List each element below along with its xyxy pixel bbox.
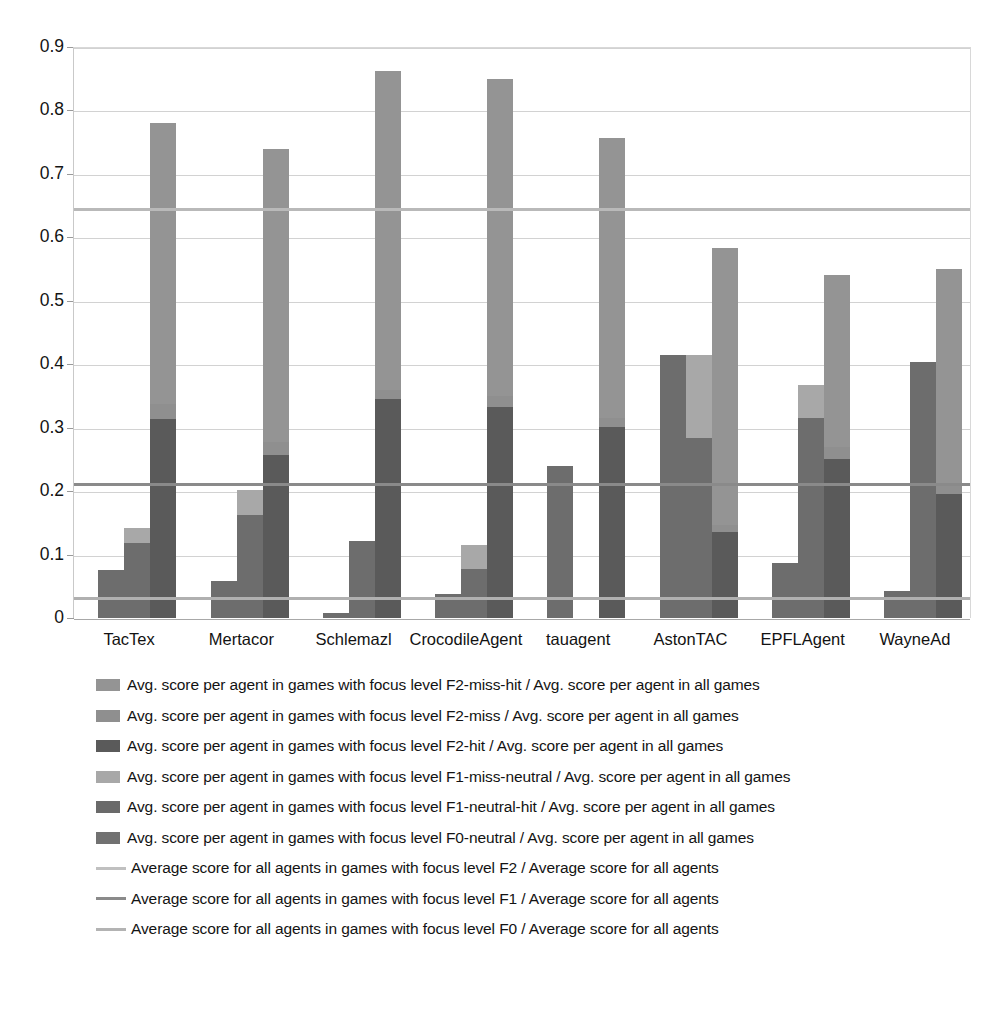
legend-line-icon — [96, 867, 126, 870]
stacked-bar — [936, 48, 962, 618]
legend-item[interactable]: Avg. score per agent in games with focus… — [96, 762, 790, 792]
bar-segment — [487, 407, 513, 618]
y-axis-tick-label: 0.4 — [18, 353, 64, 374]
stacked-bar — [124, 48, 150, 618]
legend-swatch-icon — [96, 832, 120, 844]
stacked-bar — [686, 48, 712, 618]
bar-segment — [798, 418, 824, 618]
y-axis-tick-label: 0.3 — [18, 417, 64, 438]
bar-group — [772, 48, 850, 618]
bar-segment — [936, 269, 962, 484]
bar-segment — [599, 427, 625, 618]
bar-group — [98, 48, 176, 618]
bar-group — [323, 48, 401, 618]
stacked-bar — [884, 48, 910, 618]
bar-segment — [237, 490, 263, 515]
bar-group — [435, 48, 513, 618]
stacked-bar — [375, 48, 401, 618]
legend-label: Avg. score per agent in games with focus… — [127, 737, 723, 755]
bar-segment — [910, 362, 936, 618]
legend-line-icon — [96, 928, 126, 931]
x-axis-label-epflagent: EPFLAgent — [760, 630, 844, 649]
bar-group — [211, 48, 289, 618]
y-axis-tick-label: 0.6 — [18, 226, 64, 247]
stacked-bar — [487, 48, 513, 618]
stacked-bar — [237, 48, 263, 618]
bar-segment — [375, 399, 401, 618]
bar-segment — [323, 613, 349, 618]
legend-label: Average score for all agents in games wi… — [131, 890, 719, 908]
bar-segment — [712, 532, 738, 618]
stacked-bar — [712, 48, 738, 618]
stacked-bar — [461, 48, 487, 618]
legend-label: Avg. score per agent in games with focus… — [127, 829, 754, 847]
bar-segment — [263, 442, 289, 455]
bar-group — [884, 48, 962, 618]
bar-segment — [599, 138, 625, 418]
bar-segment — [686, 355, 712, 438]
legend-label: Average score for all agents in games wi… — [131, 920, 719, 938]
bar-segment — [150, 123, 176, 403]
x-axis-label-crocodileagent: CrocodileAgent — [409, 630, 522, 649]
legend-swatch-icon — [96, 710, 120, 722]
bar-segment — [798, 385, 824, 419]
bar-segment — [150, 419, 176, 618]
bar-segment — [660, 355, 686, 618]
legend-swatch-icon — [96, 801, 120, 813]
bar-segment — [712, 525, 738, 533]
y-axis-tick-label: 0 — [18, 607, 64, 628]
stacked-bar — [323, 48, 349, 618]
stacked-bar — [573, 48, 599, 618]
stacked-bar — [211, 48, 237, 618]
y-axis-tick-label: 0.5 — [18, 290, 64, 311]
legend-item[interactable]: Avg. score per agent in games with focus… — [96, 792, 775, 822]
legend-item[interactable]: Average score for all agents in games wi… — [96, 914, 719, 944]
y-axis-tick-label: 0.8 — [18, 99, 64, 120]
reference-line-f0 — [74, 597, 970, 600]
bar-segment — [263, 455, 289, 618]
x-axis-labels: TacTexMertacorSchlemazlCrocodileAgenttau… — [73, 624, 971, 654]
stacked-bar — [547, 48, 573, 618]
bar-segment — [237, 515, 263, 618]
chart-legend: Avg. score per agent in games with focus… — [0, 660, 981, 950]
bar-segment — [124, 528, 150, 543]
legend-swatch-icon — [96, 679, 120, 691]
stacked-bar — [772, 48, 798, 618]
y-axis-tickmark — [67, 618, 74, 619]
legend-item[interactable]: Avg. score per agent in games with focus… — [96, 701, 739, 731]
x-axis-label-tauagent: tauagent — [546, 630, 610, 649]
legend-label: Average score for all agents in games wi… — [131, 859, 719, 877]
stacked-bar — [435, 48, 461, 618]
legend-item[interactable]: Avg. score per agent in games with focus… — [96, 731, 723, 761]
legend-item[interactable]: Average score for all agents in games wi… — [96, 884, 719, 914]
bar-segment — [263, 149, 289, 443]
bar-segment — [547, 466, 573, 618]
reference-line-f1 — [74, 483, 970, 486]
bar-segment — [772, 563, 798, 618]
legend-item[interactable]: Average score for all agents in games wi… — [96, 853, 719, 883]
legend-swatch-icon — [96, 740, 120, 752]
legend-item[interactable]: Avg. score per agent in games with focus… — [96, 823, 754, 853]
legend-swatch-icon — [96, 771, 120, 783]
axis-baseline — [74, 619, 970, 620]
bar-segment — [461, 545, 487, 568]
y-axis-tick-label: 0.9 — [18, 36, 64, 57]
stacked-bar — [798, 48, 824, 618]
bar-segment — [824, 447, 850, 458]
legend-item[interactable]: Avg. score per agent in games with focus… — [96, 670, 760, 700]
stacked-bar — [98, 48, 124, 618]
legend-label: Avg. score per agent in games with focus… — [127, 676, 760, 694]
stacked-bar — [824, 48, 850, 618]
stacked-bar — [263, 48, 289, 618]
legend-label: Avg. score per agent in games with focus… — [127, 768, 790, 786]
bar-segment — [599, 418, 625, 427]
bar-segment — [150, 404, 176, 420]
y-axis-tick-label: 0.1 — [18, 544, 64, 565]
legend-label: Avg. score per agent in games with focus… — [127, 707, 739, 725]
stacked-bar — [660, 48, 686, 618]
bar-segment — [349, 541, 375, 618]
x-axis-label-tactex: TacTex — [103, 630, 154, 649]
stacked-bar — [349, 48, 375, 618]
stacked-bar — [599, 48, 625, 618]
legend-label: Avg. score per agent in games with focus… — [127, 798, 775, 816]
